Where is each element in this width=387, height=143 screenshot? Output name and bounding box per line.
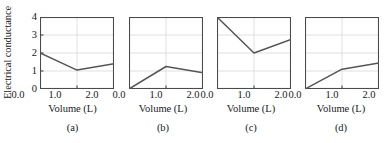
x-tick-label: 0.0 xyxy=(200,90,213,101)
x-axis-title: Volume (L) xyxy=(119,103,207,114)
chart-panel-c: 0.01.02.0Volume (L)(c) xyxy=(207,0,295,143)
chart-panel-a: 012340.01.02.0Volume (L)(a) xyxy=(18,0,119,143)
x-tick-label: 1.0 xyxy=(325,90,338,101)
x-tick-label: 0.0 xyxy=(288,90,301,101)
x-tick-label-row: 0.01.02.0 xyxy=(18,90,119,103)
y-axis-label: Electrical conductance xyxy=(2,6,13,99)
panel-letter-label: (b) xyxy=(119,122,207,133)
x-tick-label: 0.0 xyxy=(112,90,125,101)
x-tick-label: 0.0 xyxy=(11,90,24,101)
x-tick-label: 2.0 xyxy=(186,90,199,101)
plot-svg xyxy=(217,17,291,89)
x-tick-label: 2.0 xyxy=(362,90,375,101)
x-tick-label: 1.0 xyxy=(237,90,250,101)
plot-svg xyxy=(129,17,203,89)
chart-panel-d: 0.01.02.0Volume (L)(d) xyxy=(295,0,387,143)
x-tick-label-row: 0.01.02.0 xyxy=(295,90,387,103)
y-tick-label: 4 xyxy=(32,12,37,23)
y-tick-label: 1 xyxy=(32,66,37,77)
plot-area xyxy=(217,17,291,89)
y-axis-label-container: Electrical conductance xyxy=(0,0,18,100)
x-axis-title: Volume (L) xyxy=(295,103,387,114)
plot-area xyxy=(129,17,203,89)
panel-letter-label: (a) xyxy=(22,122,123,133)
x-tick-label: 1.0 xyxy=(48,90,61,101)
y-tick-label: 3 xyxy=(32,30,37,41)
panel-row: 012340.01.02.0Volume (L)(a)0.01.02.0Volu… xyxy=(18,0,387,143)
chart-panel-b: 0.01.02.0Volume (L)(b) xyxy=(119,0,207,143)
x-tick-label: 2.0 xyxy=(85,90,98,101)
x-axis-title: Volume (L) xyxy=(207,103,295,114)
plot-svg xyxy=(40,17,114,89)
plot-svg xyxy=(305,17,379,89)
y-tick-label: 2 xyxy=(32,48,37,59)
plot-area xyxy=(305,17,379,89)
plot-area: 01234 xyxy=(40,17,114,89)
x-axis-title: Volume (L) xyxy=(22,103,123,114)
x-tick-label: 2.0 xyxy=(274,90,287,101)
x-tick-label-row: 0.01.02.0 xyxy=(119,90,207,103)
four-panel-line-chart-figure: Electrical conductance 012340.01.02.0Vol… xyxy=(0,0,387,143)
panel-letter-label: (d) xyxy=(295,122,387,133)
x-tick-label: 1.0 xyxy=(149,90,162,101)
panel-letter-label: (c) xyxy=(207,122,295,133)
x-tick-label-row: 0.01.02.0 xyxy=(207,90,295,103)
